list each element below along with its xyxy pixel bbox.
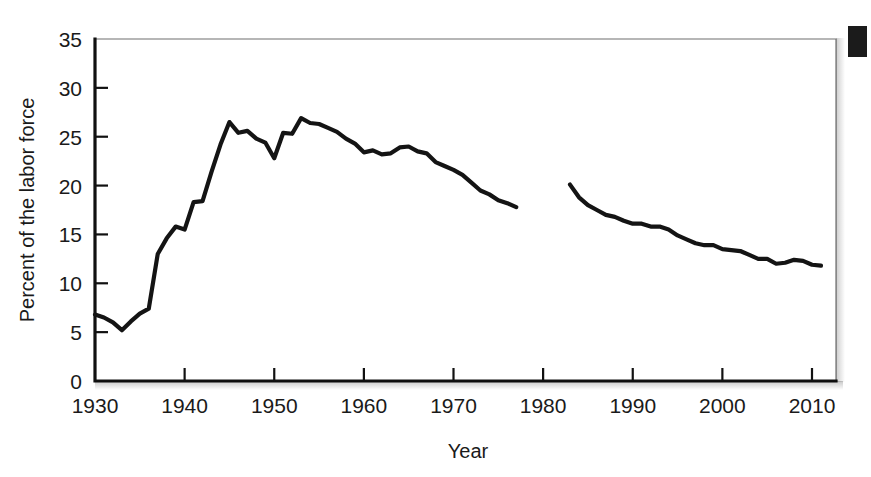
x-tick-label-1990: 1990	[609, 394, 656, 417]
scan-shadow-right	[836, 38, 845, 382]
data-line-segment-1930-1981	[95, 118, 516, 330]
x-tick-label-1930: 1930	[72, 394, 119, 417]
scan-artifact-square	[848, 26, 867, 57]
figure-container: 193019401950196019701980199020002010 051…	[0, 0, 871, 477]
x-axis-title: Year	[448, 440, 489, 462]
frame-left-bottom	[95, 39, 836, 381]
x-tick-label-2000: 2000	[699, 394, 746, 417]
y-tick-labels: 05101520253035	[59, 28, 82, 393]
y-tick-label-15: 15	[59, 223, 82, 246]
x-tick-label-1980: 1980	[520, 394, 567, 417]
plot-frame	[95, 39, 836, 381]
frame-top-right	[95, 39, 836, 381]
y-tick-label-30: 30	[59, 77, 82, 100]
x-tick-label-1950: 1950	[251, 394, 298, 417]
x-tick-label-1940: 1940	[161, 394, 208, 417]
y-tick-label-25: 25	[59, 126, 82, 149]
x-tick-labels: 193019401950196019701980199020002010	[72, 394, 836, 417]
y-tick-label-5: 5	[70, 321, 82, 344]
data-series-group	[95, 118, 821, 330]
axis-ticks	[95, 88, 812, 381]
scan-shadow-bottom	[95, 381, 843, 390]
y-axis-title: Percent of the labor force	[16, 98, 38, 323]
y-tick-label-20: 20	[59, 175, 82, 198]
x-tick-label-2010: 2010	[789, 394, 836, 417]
x-tick-label-1970: 1970	[430, 394, 477, 417]
y-tick-label-10: 10	[59, 272, 82, 295]
y-tick-label-35: 35	[59, 28, 82, 51]
x-tick-label-1960: 1960	[341, 394, 388, 417]
unemployment-union-line-chart: 193019401950196019701980199020002010 051…	[0, 0, 871, 477]
y-tick-label-0: 0	[70, 370, 82, 393]
data-line-segment-1983-2011	[570, 185, 821, 266]
